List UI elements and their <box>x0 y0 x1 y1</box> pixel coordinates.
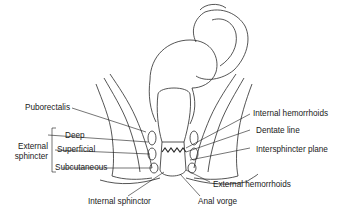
label-dentate-line: Dentate line <box>256 126 300 136</box>
dentate-line <box>162 148 186 152</box>
label-superficial: Superficial <box>57 145 95 155</box>
label-anal-verge: Anal vorge <box>198 197 237 207</box>
label-puborectalis: Puborectalis <box>16 103 70 113</box>
label-intersphincter-plane: Intersphincter plane <box>256 145 328 155</box>
right-levator <box>194 74 236 168</box>
label-internal-sphincter: Internal sphinctor <box>88 197 151 207</box>
sigmoid-colon <box>196 10 248 79</box>
label-external: External <box>0 142 48 152</box>
rectum <box>150 40 217 88</box>
label-internal-hemorrhoids: Internal hemorrhoids <box>253 109 328 119</box>
label-subcutaneous: Subcutaneous <box>55 163 107 173</box>
label-sphincter: sphincter <box>0 152 48 162</box>
label-external-hemorrhoids: External hemorrhoids <box>213 180 291 190</box>
label-deep: Deep <box>65 131 85 141</box>
